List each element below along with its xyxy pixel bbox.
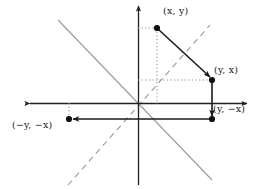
diagram-canvas	[0, 0, 263, 189]
point-xy	[154, 25, 160, 31]
point-negy-negx	[66, 116, 72, 122]
reference-line-y-equals-neg-x	[58, 20, 212, 180]
point-y-negx	[209, 116, 215, 122]
point-yx	[209, 77, 215, 83]
coordinate-geometry-figure: (x, y) (y, x) (y, −x) (−y, −x)	[0, 0, 263, 189]
point-label-xy: (x, y)	[163, 6, 188, 16]
point-label-y-negx: (y, −x)	[213, 104, 245, 114]
point-label-negy-negx: (−y, −x)	[12, 120, 52, 130]
point-label-yx: (y, x)	[214, 65, 238, 75]
arrow-xy-to-yx	[159, 30, 211, 78]
